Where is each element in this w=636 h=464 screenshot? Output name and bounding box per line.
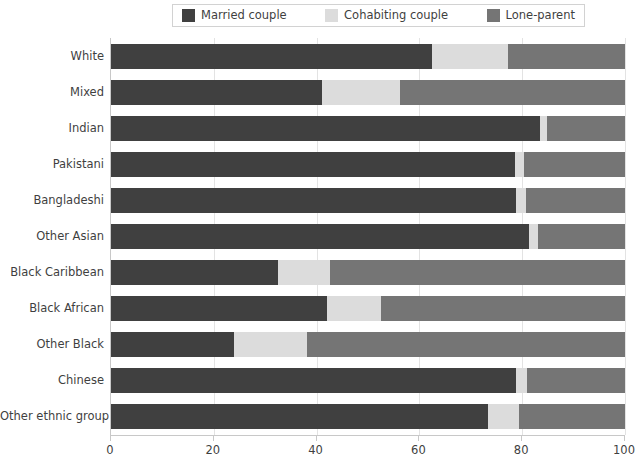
bar-rows: [111, 38, 625, 435]
legend-item-married-couple: Married couple: [182, 9, 287, 22]
bar-row: [111, 152, 625, 177]
bar-row: [111, 404, 625, 429]
y-axis-tick-label: Other ethnic group: [0, 404, 104, 429]
bar-row: [111, 296, 625, 321]
bar-row: [111, 260, 625, 285]
bar-segment: [516, 188, 526, 213]
x-axis-tick-label: 0: [106, 443, 113, 457]
bar-segment: [111, 368, 516, 393]
y-axis-tick-label: Black African: [0, 296, 104, 321]
legend-label-married-couple: Married couple: [201, 10, 287, 22]
legend-item-cohabiting-couple: Cohabiting couple: [325, 9, 448, 22]
bar-segment: [529, 224, 538, 249]
bar-row: [111, 188, 625, 213]
x-axis-tick-label: 100: [613, 443, 635, 457]
x-axis-tick-mark: [624, 436, 625, 441]
y-axis-tick-label: Other Asian: [0, 224, 104, 249]
bar-row: [111, 116, 625, 141]
y-axis-tick-label: Chinese: [0, 368, 104, 393]
bar-segment: [516, 368, 527, 393]
x-axis-tick-mark: [213, 436, 214, 441]
bar-row: [111, 368, 625, 393]
bar-segment: [111, 80, 322, 105]
bar-segment: [330, 260, 625, 285]
bar-segment: [111, 116, 540, 141]
bar-segment: [307, 332, 625, 357]
x-axis-tick-mark: [418, 436, 419, 441]
bar-segment: [111, 404, 488, 429]
bar-row: [111, 44, 625, 69]
y-axis-tick-label: White: [0, 44, 104, 69]
bar-segment: [322, 80, 400, 105]
legend-swatch-married-couple: [182, 9, 195, 22]
bar-segment: [524, 152, 625, 177]
y-axis-tick-label: Bangladeshi: [0, 188, 104, 213]
legend-swatch-lone-parent: [487, 9, 500, 22]
bar-segment: [515, 152, 524, 177]
x-axis-tick-label: 20: [205, 443, 220, 457]
bar-segment: [547, 116, 625, 141]
legend-label-lone-parent: Lone-parent: [506, 10, 575, 22]
x-axis-tick-label: 40: [308, 443, 323, 457]
bar-segment: [508, 44, 625, 69]
bar-segment: [432, 44, 508, 69]
y-axis-tick-label: Pakistani: [0, 152, 104, 177]
y-axis-tick-label: Indian: [0, 116, 104, 141]
bar-segment: [538, 224, 625, 249]
bar-segment: [111, 188, 516, 213]
bar-segment: [234, 332, 307, 357]
bar-segment: [527, 368, 625, 393]
bar-row: [111, 332, 625, 357]
bar-segment: [519, 404, 625, 429]
x-axis-tick-label: 80: [514, 443, 529, 457]
x-axis-tick-label: 60: [411, 443, 426, 457]
x-axis-tick-mark: [521, 436, 522, 441]
bar-segment: [111, 260, 278, 285]
bar-row: [111, 224, 625, 249]
bar-segment: [278, 260, 330, 285]
plot-area: [110, 38, 625, 436]
bar-segment: [540, 116, 547, 141]
gridline-100: [625, 38, 626, 435]
x-axis-tick-mark: [110, 436, 111, 441]
bar-segment: [111, 44, 432, 69]
bar-segment: [327, 296, 381, 321]
legend-swatch-cohabiting-couple: [325, 9, 338, 22]
bar-segment: [111, 152, 515, 177]
bar-segment: [400, 80, 625, 105]
y-axis-tick-label: Other Black: [0, 332, 104, 357]
bar-segment: [111, 296, 327, 321]
chart-legend: Married couple Cohabiting couple Lone-pa…: [172, 4, 585, 27]
y-axis-labels: WhiteMixedIndianPakistaniBangladeshiOthe…: [0, 38, 104, 435]
bar-segment: [111, 332, 234, 357]
bar-segment: [526, 188, 625, 213]
bar-segment: [381, 296, 625, 321]
y-axis-tick-label: Mixed: [0, 80, 104, 105]
legend-item-lone-parent: Lone-parent: [487, 9, 575, 22]
y-axis-tick-label: Black Caribbean: [0, 260, 104, 285]
legend-label-cohabiting-couple: Cohabiting couple: [344, 10, 448, 22]
x-axis: 020406080100: [110, 436, 625, 464]
bar-segment: [488, 404, 519, 429]
x-axis-tick-mark: [316, 436, 317, 441]
bar-segment: [111, 224, 529, 249]
bar-row: [111, 80, 625, 105]
